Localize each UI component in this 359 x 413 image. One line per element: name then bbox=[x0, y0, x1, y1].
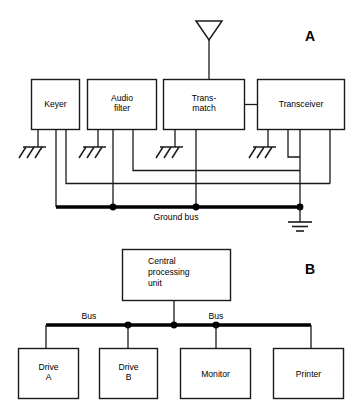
block-drive-a: Drive A bbox=[19, 349, 79, 399]
earth-ground-icon bbox=[288, 207, 312, 231]
ground-lead-wiring bbox=[56, 130, 330, 208]
panel-b-letter: B bbox=[305, 261, 315, 277]
block-drive-b-label-line1: Drive bbox=[118, 362, 138, 372]
block-monitor-label: Monitor bbox=[201, 369, 230, 379]
block-keyer-label: Keyer bbox=[44, 99, 67, 109]
bus-label-right: Bus bbox=[209, 311, 224, 321]
block-audio-filter-label-line1: Audio bbox=[111, 93, 133, 103]
block-cpu-label-line2: processing bbox=[148, 267, 190, 277]
block-transceiver-label: Transceiver bbox=[279, 99, 324, 109]
block-cpu-label-line3: unit bbox=[148, 278, 162, 288]
panel-a-letter: A bbox=[305, 28, 315, 44]
bus-label-left: Bus bbox=[82, 311, 97, 321]
block-cpu-label-line1: Central bbox=[148, 256, 176, 266]
ground-bus-label: Ground bus bbox=[154, 212, 199, 222]
block-transmatch-label-line1: Trans- bbox=[192, 93, 217, 103]
block-printer: Printer bbox=[274, 349, 344, 399]
technical-diagram: A Keyer Audio filter Trans- match T bbox=[0, 0, 359, 413]
block-monitor: Monitor bbox=[181, 349, 251, 399]
panel-a: A Keyer Audio filter Trans- match T bbox=[19, 21, 345, 231]
block-keyer: Keyer bbox=[32, 80, 80, 130]
block-printer-label: Printer bbox=[296, 369, 321, 379]
bus-node bbox=[193, 204, 200, 211]
panel-b: B Central processing unit Bus Bus bbox=[19, 250, 344, 399]
block-drive-a-label-line1: Drive bbox=[38, 362, 58, 372]
block-cpu: Central processing unit bbox=[123, 250, 231, 301]
bus-node bbox=[171, 322, 178, 329]
chassis-ground-icon-transceiver bbox=[249, 130, 276, 159]
block-drive-b: Drive B bbox=[100, 349, 158, 399]
block-transceiver: Transceiver bbox=[258, 80, 345, 130]
bus-node bbox=[110, 204, 117, 211]
block-audio-filter-label-line2: filter bbox=[114, 103, 130, 113]
chassis-ground-icon-keyer bbox=[19, 130, 46, 159]
block-transmatch-label-line2: match bbox=[192, 103, 216, 113]
block-drive-b-label-line2: B bbox=[126, 372, 132, 382]
block-drive-a-label-line2: A bbox=[46, 372, 52, 382]
block-transmatch: Trans- match bbox=[164, 80, 245, 130]
chassis-ground-icon-audio-filter bbox=[79, 130, 106, 159]
block-audio-filter: Audio filter bbox=[88, 80, 157, 130]
antenna-icon bbox=[196, 21, 222, 79]
chassis-ground-icon-transmatch bbox=[156, 130, 183, 159]
figure-root: A Keyer Audio filter Trans- match T bbox=[0, 0, 359, 413]
